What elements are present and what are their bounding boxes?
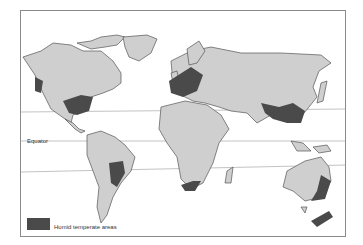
world-map xyxy=(21,11,346,237)
equator-label: Equator xyxy=(27,138,48,144)
map-frame: Equator Humid temperate areas xyxy=(20,10,346,237)
legend: Humid temperate areas xyxy=(27,218,117,230)
legend-label: Humid temperate areas xyxy=(54,224,117,230)
land xyxy=(23,35,331,223)
legend-swatch xyxy=(27,218,50,230)
